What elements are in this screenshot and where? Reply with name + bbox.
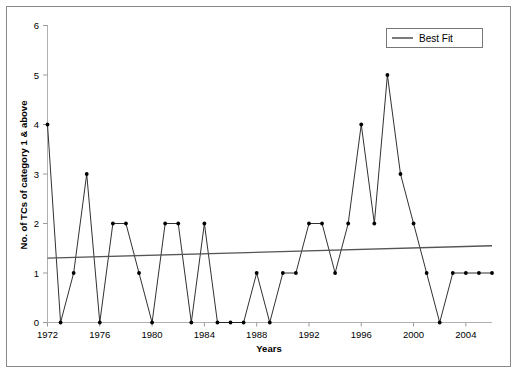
- chart-plot-container: 0 1 2 3 4 5 6 19721976198019841988199219…: [0, 0, 518, 374]
- data-point: [320, 222, 324, 226]
- x-tick-label-1984: 1984: [194, 329, 215, 340]
- data-point: [399, 172, 403, 176]
- x-tick-label-1996: 1996: [351, 329, 372, 340]
- data-point: [268, 321, 272, 325]
- x-axis-title: Years: [256, 343, 281, 354]
- data-point: [242, 321, 246, 325]
- data-point: [163, 222, 167, 226]
- data-point: [359, 123, 363, 127]
- data-point: [425, 271, 429, 275]
- data-point: [216, 321, 220, 325]
- data-point: [333, 271, 337, 275]
- data-point: [438, 321, 442, 325]
- chart-svg: 0 1 2 3 4 5 6 19721976198019841988199219…: [0, 0, 518, 374]
- y-tick-marks: [43, 26, 48, 323]
- data-point: [255, 271, 259, 275]
- data-point: [372, 222, 376, 226]
- x-tick-label-1972: 1972: [37, 329, 58, 340]
- data-point: [281, 271, 285, 275]
- x-tick-label-2004: 2004: [455, 329, 476, 340]
- y-tick-label-4: 4: [34, 119, 39, 130]
- y-axis-title: No. of TCs of category 1 & above: [18, 101, 29, 250]
- data-point: [202, 222, 206, 226]
- data-point: [412, 222, 416, 226]
- data-series-line: [48, 75, 493, 323]
- chart-screenshot: 0 1 2 3 4 5 6 19721976198019841988199219…: [0, 0, 518, 374]
- data-point: [98, 321, 102, 325]
- x-tick-label-2000: 2000: [403, 329, 424, 340]
- data-point: [124, 222, 128, 226]
- data-point: [150, 321, 154, 325]
- data-point: [307, 222, 311, 226]
- data-point: [477, 271, 481, 275]
- y-tick-label-1: 1: [34, 268, 39, 279]
- y-tick-labels: 0 1 2 3 4 5 6: [34, 20, 39, 328]
- data-point: [85, 172, 89, 176]
- data-point: [346, 222, 350, 226]
- data-point: [176, 222, 180, 226]
- x-tick-marks: [48, 323, 466, 327]
- x-tick-label-1976: 1976: [89, 329, 110, 340]
- data-point: [294, 271, 298, 275]
- y-tick-label-3: 3: [34, 169, 39, 180]
- data-point: [464, 271, 468, 275]
- legend-label-best-fit: Best Fit: [419, 33, 453, 44]
- data-point: [111, 222, 115, 226]
- data-point: [386, 73, 390, 77]
- data-point: [451, 271, 455, 275]
- y-tick-label-2: 2: [34, 218, 39, 229]
- data-point: [490, 271, 494, 275]
- data-point: [46, 123, 50, 127]
- data-point: [59, 321, 63, 325]
- legend[interactable]: Best Fit: [387, 29, 483, 48]
- y-tick-label-5: 5: [34, 70, 39, 81]
- data-point: [72, 271, 76, 275]
- y-tick-label-0: 0: [34, 317, 39, 328]
- x-tick-label-1992: 1992: [298, 329, 319, 340]
- x-tick-label-1980: 1980: [142, 329, 163, 340]
- data-series-markers: [46, 73, 494, 324]
- data-point: [189, 321, 193, 325]
- data-point: [229, 321, 233, 325]
- best-fit-trendline: [48, 246, 493, 258]
- x-tick-labels: 197219761980198419881992199620002004: [37, 329, 476, 340]
- x-tick-label-1988: 1988: [246, 329, 267, 340]
- data-point: [137, 271, 141, 275]
- y-tick-label-6: 6: [34, 20, 39, 31]
